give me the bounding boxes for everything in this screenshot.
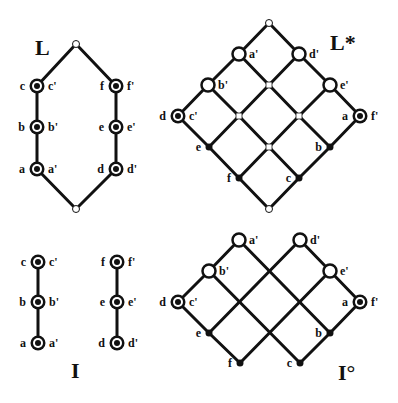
node-bullseye-icon — [31, 336, 46, 351]
node-label: d' — [128, 336, 138, 350]
node-bullseye-icon — [31, 295, 46, 310]
figure-I: cc'bb'aa'ff'ee'dd'I — [19, 255, 138, 384]
figure-Io: a'b'dc'efd'e'af'bcI° — [159, 233, 378, 385]
node-label: c' — [189, 295, 198, 309]
node-dot-icon — [297, 360, 304, 367]
edge — [239, 178, 269, 209]
node-label: a — [20, 336, 26, 350]
node-square-icon — [236, 113, 242, 119]
node-label: f' — [128, 255, 135, 269]
node-open-icon — [203, 265, 216, 278]
node-label: d — [159, 109, 166, 123]
node-dot-icon — [206, 330, 213, 337]
node-open-icon — [202, 79, 215, 92]
node-label: a — [342, 109, 348, 123]
node-bullseye-icon — [30, 79, 45, 94]
node-label: f — [227, 171, 232, 185]
node-label: c' — [48, 79, 57, 93]
node-bullseye-icon — [30, 162, 45, 177]
node-label: f' — [127, 79, 134, 93]
node-open-icon — [233, 234, 246, 247]
node-dot-icon — [327, 330, 334, 337]
node-label: d — [159, 295, 166, 309]
node-label: c' — [189, 109, 198, 123]
figure-title: I° — [338, 360, 355, 385]
node-label: b' — [218, 78, 228, 92]
node-label: b — [19, 295, 26, 309]
node-square-icon — [266, 144, 272, 150]
node-label: b — [315, 326, 322, 340]
node-open-icon — [293, 48, 306, 61]
node-label: e' — [128, 295, 137, 309]
node-label: e — [196, 140, 202, 154]
node-label: b' — [49, 295, 59, 309]
node-label: c — [287, 356, 293, 370]
edge — [76, 169, 116, 209]
node-label: c — [21, 255, 27, 269]
node-dot-icon — [237, 360, 244, 367]
node-bullseye-icon — [31, 255, 46, 270]
node-label: d' — [309, 47, 319, 61]
node-small-open-icon — [266, 206, 273, 213]
edge — [269, 116, 299, 147]
node-dot-icon — [327, 144, 334, 151]
edge — [239, 147, 269, 178]
node-open-icon — [294, 234, 307, 247]
node-bullseye-icon — [110, 295, 125, 310]
node-label: e' — [340, 264, 349, 278]
node-label: a' — [48, 162, 57, 176]
node-label: d — [98, 336, 105, 350]
node-label: e — [100, 295, 106, 309]
node-label: a' — [249, 233, 258, 247]
node-dot-icon — [206, 144, 213, 151]
node-dot-icon — [296, 175, 303, 182]
node-label: c — [286, 171, 292, 185]
node-bullseye-icon — [110, 336, 125, 351]
lattice-diagram: cc'bb'aa'ff'ee'dd'La'b'dc'd'e'af'efbcL*c… — [0, 0, 398, 403]
node-label: d' — [310, 233, 320, 247]
node-open-icon — [233, 48, 246, 61]
node-label: a — [19, 162, 25, 176]
node-bullseye-icon — [353, 109, 368, 124]
node-bullseye-icon — [171, 109, 186, 124]
node-label: f — [100, 79, 105, 93]
node-small-open-icon — [73, 41, 80, 48]
node-small-open-icon — [73, 206, 80, 213]
figure-Lstar: a'b'dc'd'e'af'efbcL* — [159, 20, 378, 213]
edge — [239, 116, 269, 147]
node-label: d — [97, 162, 104, 176]
edge — [209, 116, 239, 147]
node-open-icon — [324, 79, 337, 92]
node-label: b' — [219, 264, 229, 278]
node-small-open-icon — [266, 20, 273, 27]
figure-title: L — [35, 35, 50, 60]
lattice-figures-svg: cc'bb'aa'ff'ee'dd'La'b'dc'd'e'af'efbcL*c… — [0, 0, 398, 403]
edge — [209, 333, 240, 363]
node-label: e' — [340, 78, 349, 92]
figure-title: I — [71, 358, 80, 383]
node-label: e — [196, 326, 202, 340]
node-label: f' — [371, 295, 378, 309]
node-dot-icon — [236, 175, 243, 182]
node-bullseye-icon — [30, 120, 45, 135]
node-label: a — [342, 295, 348, 309]
node-bullseye-icon — [353, 295, 368, 310]
node-bullseye-icon — [109, 162, 124, 177]
edge — [269, 178, 299, 209]
node-label: f' — [371, 109, 378, 123]
node-label: e — [99, 120, 105, 134]
node-bullseye-icon — [109, 79, 124, 94]
node-bullseye-icon — [110, 255, 125, 270]
node-label: c' — [49, 255, 58, 269]
edge — [269, 147, 299, 178]
node-square-icon — [266, 82, 272, 88]
node-bullseye-icon — [171, 295, 186, 310]
node-label: b' — [48, 120, 58, 134]
edge — [76, 44, 116, 86]
edge — [239, 85, 269, 116]
node-bullseye-icon — [109, 120, 124, 135]
node-open-icon — [324, 265, 337, 278]
node-label: b — [315, 140, 322, 154]
edge — [269, 85, 299, 116]
node-square-icon — [296, 113, 302, 119]
